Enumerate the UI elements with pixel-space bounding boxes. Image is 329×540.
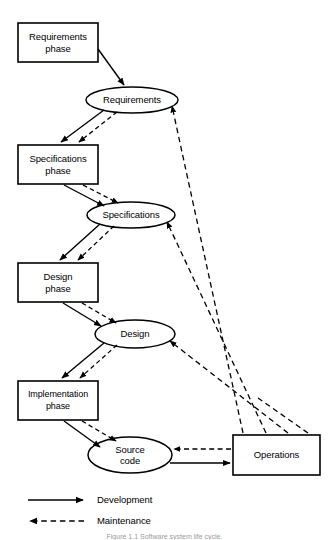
design-phase-box xyxy=(18,263,98,302)
specifications-phase-box xyxy=(18,145,98,184)
legend-development-label: Development xyxy=(97,494,152,505)
arrow-specifications-to-designphase xyxy=(60,224,100,260)
arrow-reqphase-to-requirements xyxy=(98,49,124,85)
dashed-specifications-to-designphase xyxy=(78,226,114,260)
figure-caption: Figure 1.1 Software system life cycle. xyxy=(0,533,329,540)
dashed-design-to-implementationphase xyxy=(80,345,117,378)
dashed-designphase-to-design xyxy=(82,303,116,323)
arrow-designphase-to-design xyxy=(63,303,101,326)
implementation-phase-box xyxy=(18,381,98,420)
dashed-requirements-to-specphase xyxy=(79,112,117,142)
design-artifact-ellipse xyxy=(95,320,175,348)
operations-box xyxy=(233,435,320,475)
specifications-artifact-ellipse xyxy=(87,202,175,228)
legend-maintenance-label: Maintenance xyxy=(97,515,151,526)
dashed-specphase-to-specifications xyxy=(83,185,118,203)
requirements-artifact-ellipse xyxy=(86,87,178,113)
dashed-operations-to-requirements xyxy=(172,106,243,433)
life-cycle-diagram: Requirements phase Specifications phase … xyxy=(0,0,329,540)
dashed-operations-to-specifications xyxy=(167,222,266,433)
source-code-artifact-ellipse xyxy=(88,437,172,473)
arrow-design-to-implementationphase xyxy=(62,343,104,378)
arrow-requirements-to-specphase xyxy=(61,110,104,142)
arrow-implementationphase-to-sourcecode xyxy=(64,421,100,447)
diagram-canvas xyxy=(0,0,329,540)
arrow-specphase-to-specifications xyxy=(64,185,104,206)
requirements-phase-box xyxy=(18,23,98,62)
